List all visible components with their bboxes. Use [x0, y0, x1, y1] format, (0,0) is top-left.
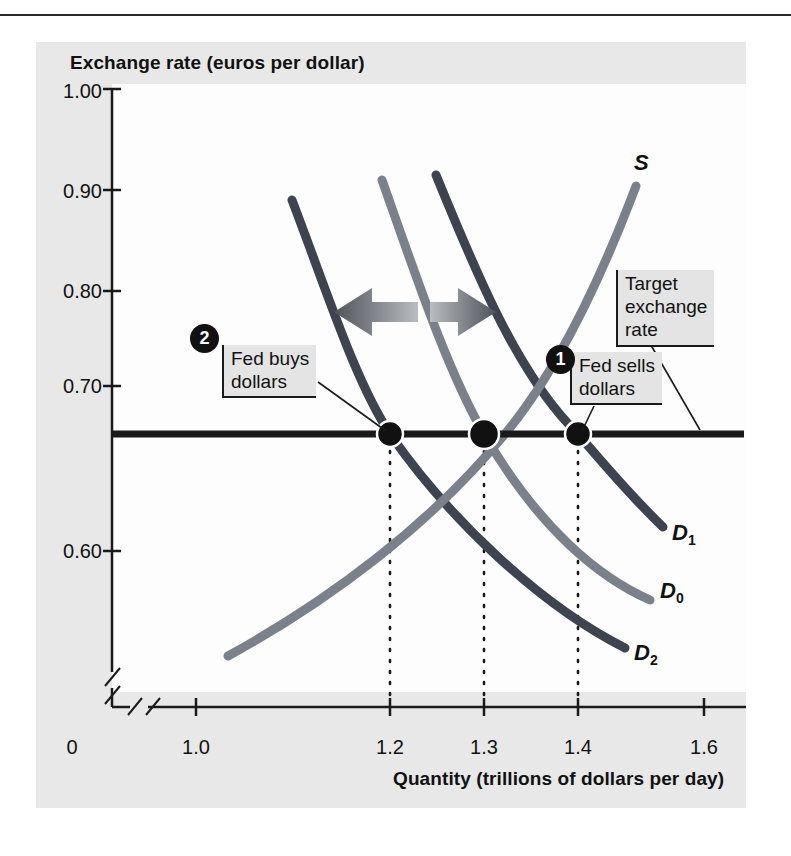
drop-lines: [390, 440, 578, 702]
curve-label-supply: S: [634, 150, 649, 176]
curve-label-d1-sub: 1: [688, 532, 696, 548]
callout-target-line3: rate: [625, 318, 707, 341]
y-axis: [103, 88, 121, 707]
badge-fed-buys: 2: [190, 324, 219, 353]
callout-target-line1: Target: [625, 272, 707, 295]
chart-graphics: [0, 0, 791, 856]
figure-page: Exchange rate (euros per dollar) Quantit…: [0, 0, 791, 856]
callout-fed-sells-dollars: Fed sells dollars: [570, 352, 662, 405]
callout-fed-buys-line1: Fed buys: [231, 347, 309, 370]
curve-label-d0-sub: 0: [676, 590, 684, 606]
badge-fed-sells: 1: [546, 345, 575, 374]
curve-label-d1: D1: [672, 520, 696, 548]
curve-label-d2: D2: [634, 640, 658, 668]
callout-fed-sells-line1: Fed sells: [579, 354, 655, 377]
dot-fed-sells: [565, 421, 591, 447]
dot-initial-equilibrium: [469, 419, 499, 449]
curve-label-d0: D0: [660, 578, 684, 606]
curve-label-d2-sub: 2: [650, 652, 658, 668]
callout-fed-buys-line2: dollars: [231, 370, 309, 393]
callout-fed-sells-line2: dollars: [579, 377, 655, 400]
callout-target-exchange-rate: Target exchange rate: [616, 270, 714, 347]
curve-label-d0-letter: D: [660, 578, 676, 603]
callout-fed-buys-dollars: Fed buys dollars: [222, 345, 316, 398]
x-axis: [112, 698, 746, 716]
callout-target-line2: exchange: [625, 295, 707, 318]
curve-label-d2-letter: D: [634, 640, 650, 665]
dot-fed-buys: [377, 421, 403, 447]
curve-label-d1-letter: D: [672, 520, 688, 545]
shift-arrow-left: [334, 288, 418, 336]
